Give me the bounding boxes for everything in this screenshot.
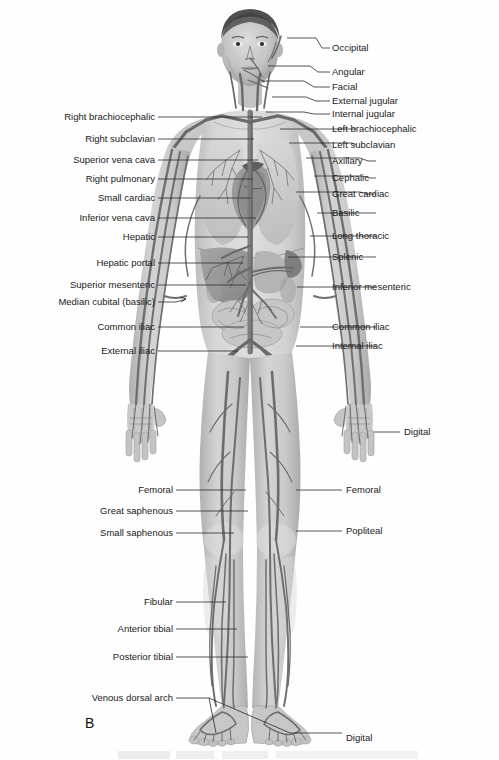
right-hand (126, 404, 166, 462)
vein-label-anterior-tibial: Anterior tibial (118, 624, 173, 634)
vein-label-splenic: Splenic (332, 252, 363, 262)
anatomy-figure-panel: Right brachiocephalicRight subclavianSup… (0, 0, 499, 760)
right-foot (189, 706, 249, 746)
vein-label-posterior-tibial: Posterior tibial (113, 652, 173, 662)
vein-label-superior-mesenteric: Superior mesenteric (70, 280, 155, 290)
vein-label-digital: Digital (404, 427, 430, 437)
vein-label-left-subclavian: Left subclavian (332, 140, 395, 150)
panel-letter: B (85, 715, 94, 731)
vein-label-right-brachiocephalic: Right brachiocephalic (64, 112, 155, 122)
vein-label-occipital: Occipital (332, 43, 368, 53)
vein-label-common-iliac: Common iliac (332, 322, 390, 332)
vein-label-long-thoracic: Long thoracic (332, 231, 389, 241)
vein-label-small-cardiac: Small cardiac (98, 193, 155, 203)
vein-label-internal-iliac: Internal iliac (332, 341, 383, 351)
vein-label-external-jugular: External jugular (332, 96, 398, 106)
vein-label-femoral: Femoral (138, 485, 173, 495)
vein-label-inferior-vena-cava: Inferior vena cava (79, 213, 155, 223)
vein-label-popliteal: Popliteal (346, 526, 382, 536)
vein-label-femoral: Femoral (346, 485, 381, 495)
vein-label-left-brachiocephalic: Left brachiocephalic (332, 124, 417, 134)
vein-label-inferior-mesenteric: Inferior mesenteric (332, 282, 411, 292)
vein-label-median-cubital-basilic: Median cubital (basilic) (58, 297, 155, 307)
vein-label-right-subclavian: Right subclavian (85, 134, 155, 144)
vein-label-facial: Facial (332, 82, 357, 92)
vein-label-cephalic: Cephalic (332, 173, 369, 183)
vein-label-right-pulmonary: Right pulmonary (86, 174, 155, 184)
vein-label-small-saphenous: Small saphenous (100, 528, 173, 538)
vein-label-hepatic: Hepatic (123, 232, 155, 242)
left-foot (251, 706, 311, 746)
vein-label-common-iliac: Common iliac (97, 322, 155, 332)
vein-label-external-iliac: External iliac (101, 346, 155, 356)
vein-label-internal-jugular: Internal jugular (332, 109, 395, 119)
vein-label-great-saphenous: Great saphenous (100, 506, 173, 516)
body-figure (126, 9, 374, 746)
vein-label-venous-dorsal-arch: Venous dorsal arch (92, 693, 173, 703)
vein-label-great-cardiac: Great cardiac (332, 189, 389, 199)
vein-label-hepatic-portal: Hepatic portal (96, 258, 155, 268)
vein-label-fibular: Fibular (144, 597, 173, 607)
vein-label-digital: Digital (346, 733, 372, 743)
figure-caption-cropped (118, 751, 418, 759)
vein-label-angular: Angular (332, 67, 365, 77)
head-group (217, 9, 283, 86)
vein-label-axillary: Axillary (332, 156, 363, 166)
left-hand (334, 404, 374, 462)
vein-label-basilic: Basilic (332, 208, 359, 218)
vein-label-superior-vena-cava: Superior vena cava (73, 155, 155, 165)
